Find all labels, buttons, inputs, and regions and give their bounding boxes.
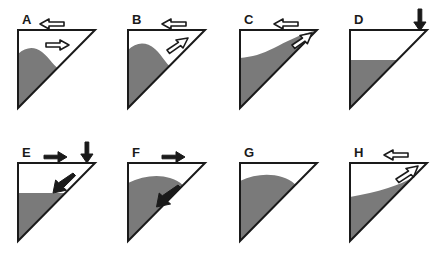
panel-label-A: A [22, 12, 32, 27]
wedge-diagram: A B [0, 0, 443, 266]
figure-background [0, 0, 443, 266]
panel-label-E: E [22, 145, 31, 160]
panel-label-G: G [244, 145, 254, 160]
figure-container: A B [0, 0, 443, 266]
panel-label-F: F [132, 145, 140, 160]
panel-label-C: C [244, 12, 254, 27]
panel-label-D: D [354, 12, 363, 27]
panel-label-H: H [354, 145, 363, 160]
panel-label-B: B [132, 12, 141, 27]
